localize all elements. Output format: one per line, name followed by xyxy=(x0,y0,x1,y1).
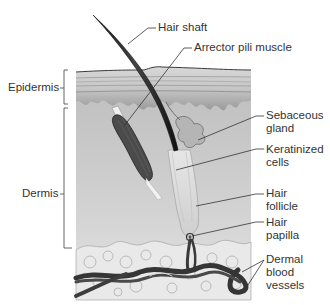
label-dermal-blood-vessels-line1: Dermal xyxy=(266,253,303,266)
dermis-bracket xyxy=(60,108,72,248)
label-dermal-blood-vessels-line2: blood xyxy=(266,266,294,279)
label-arrector-pili-muscle: Arrector pili muscle xyxy=(194,41,292,54)
label-sebaceous-gland-line1: Sebaceous xyxy=(266,109,324,122)
label-dermis: Dermis xyxy=(22,187,58,200)
label-hair-papilla-line1: Hair xyxy=(266,216,287,229)
epidermis-bracket xyxy=(60,70,68,104)
label-dermal-blood-vessels-line3: vessels xyxy=(266,279,304,292)
label-sebaceous-gland-line2: gland xyxy=(266,122,294,135)
label-epidermis: Epidermis xyxy=(8,81,59,94)
label-keratinized-cells-line2: cells xyxy=(266,156,289,169)
leader-hair-shaft xyxy=(128,28,156,44)
label-hair-shaft: Hair shaft xyxy=(158,21,207,34)
label-keratinized-cells-line1: Keratinized xyxy=(266,143,324,156)
label-hair-follicle-line1: Hair xyxy=(266,187,287,200)
skin-hair-diagram: Epidermis Dermis Hair shaft Arrector pil… xyxy=(0,0,330,305)
label-hair-papilla-line2: papilla xyxy=(266,229,299,242)
label-hair-follicle-line2: follicle xyxy=(266,200,298,213)
